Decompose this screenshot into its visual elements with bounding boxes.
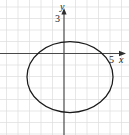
ellipse-curve (27, 42, 113, 113)
graph-canvas (0, 0, 129, 135)
x-axis-tick-label-5: 5 (109, 55, 114, 65)
y-axis-label: y (60, 2, 64, 12)
y-axis-tick-label-3: 3 (55, 14, 60, 24)
coordinate-plane-figure: y 3 5 x (0, 0, 129, 135)
x-axis-label: x (119, 55, 123, 65)
